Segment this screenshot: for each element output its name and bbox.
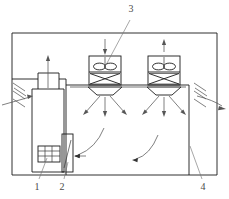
diffuser-left-spray-arrows [83,96,127,117]
callout-leader-4 [190,146,202,179]
technical-diagram-root: 3 1 2 4 [0,0,229,199]
callout-label-1: 1 [35,181,40,192]
diffuser-right-spray-arrows [142,96,186,117]
callout-label-3: 3 [129,3,134,14]
outlet-flow-arrow-right [197,96,226,110]
ventilation-schematic-svg: 3 1 2 4 [0,0,229,199]
callout-label-4: 4 [201,181,206,192]
inlet-louvres-left [13,83,26,107]
diffuser-left [88,87,122,95]
inner-chamber [66,85,189,175]
diffuser-right [147,87,181,95]
riser-up-arrow [46,55,50,88]
outlet-louvres-right [194,83,207,107]
supply-fan-unit-right [148,39,180,85]
recirculation-arrows [74,128,158,162]
heat-exchanger-coil [38,146,60,162]
callout-leader-3 [106,20,130,65]
outer-enclosure [12,33,217,175]
inlet-flow-arrow-left [2,95,33,105]
callout-label-2: 2 [60,181,65,192]
callout-leader-1 [39,158,47,179]
